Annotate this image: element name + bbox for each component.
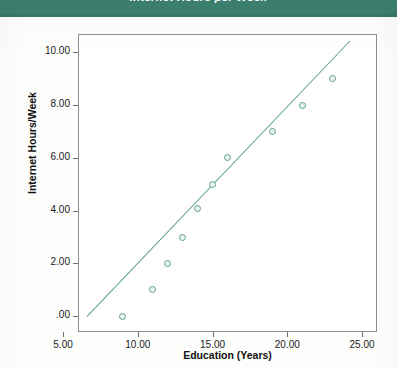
x-tick-mark bbox=[287, 332, 288, 337]
data-point bbox=[299, 102, 306, 109]
data-point bbox=[179, 234, 186, 241]
banner-title: Internet Hours per Week bbox=[0, 0, 397, 3]
x-tick-mark bbox=[138, 332, 139, 337]
x-tick-mark bbox=[63, 332, 64, 337]
y-tick-label: 10.00 bbox=[45, 45, 70, 56]
y-axis-title: Internet Hours/Week bbox=[26, 63, 38, 223]
y-tick-label: 2.00 bbox=[51, 256, 70, 267]
y-tick-mark bbox=[73, 52, 78, 53]
y-tick-mark bbox=[73, 316, 78, 317]
section-banner: Internet Hours per Week bbox=[0, 0, 397, 17]
chart-screenshot: Internet Hours per Week Internet Hours/W… bbox=[0, 0, 397, 369]
y-tick-mark bbox=[73, 158, 78, 159]
data-point bbox=[329, 75, 336, 82]
x-tick-mark bbox=[362, 332, 363, 337]
data-point bbox=[119, 313, 126, 320]
x-axis-title: Education (Years) bbox=[78, 349, 377, 361]
y-tick-label: 6.00 bbox=[51, 151, 70, 162]
data-point bbox=[209, 181, 216, 188]
data-point bbox=[194, 205, 201, 212]
y-tick-label: 4.00 bbox=[51, 204, 70, 215]
scatterplot: Internet Hours/Week 10.008.006.004.002.0… bbox=[0, 17, 397, 369]
y-tick-label: 8.00 bbox=[51, 98, 70, 109]
y-tick-mark bbox=[73, 105, 78, 106]
data-point bbox=[269, 128, 276, 135]
y-tick-mark bbox=[73, 263, 78, 264]
y-tick-label: .00 bbox=[56, 309, 70, 320]
x-tick-mark bbox=[213, 332, 214, 337]
y-tick-mark bbox=[73, 211, 78, 212]
